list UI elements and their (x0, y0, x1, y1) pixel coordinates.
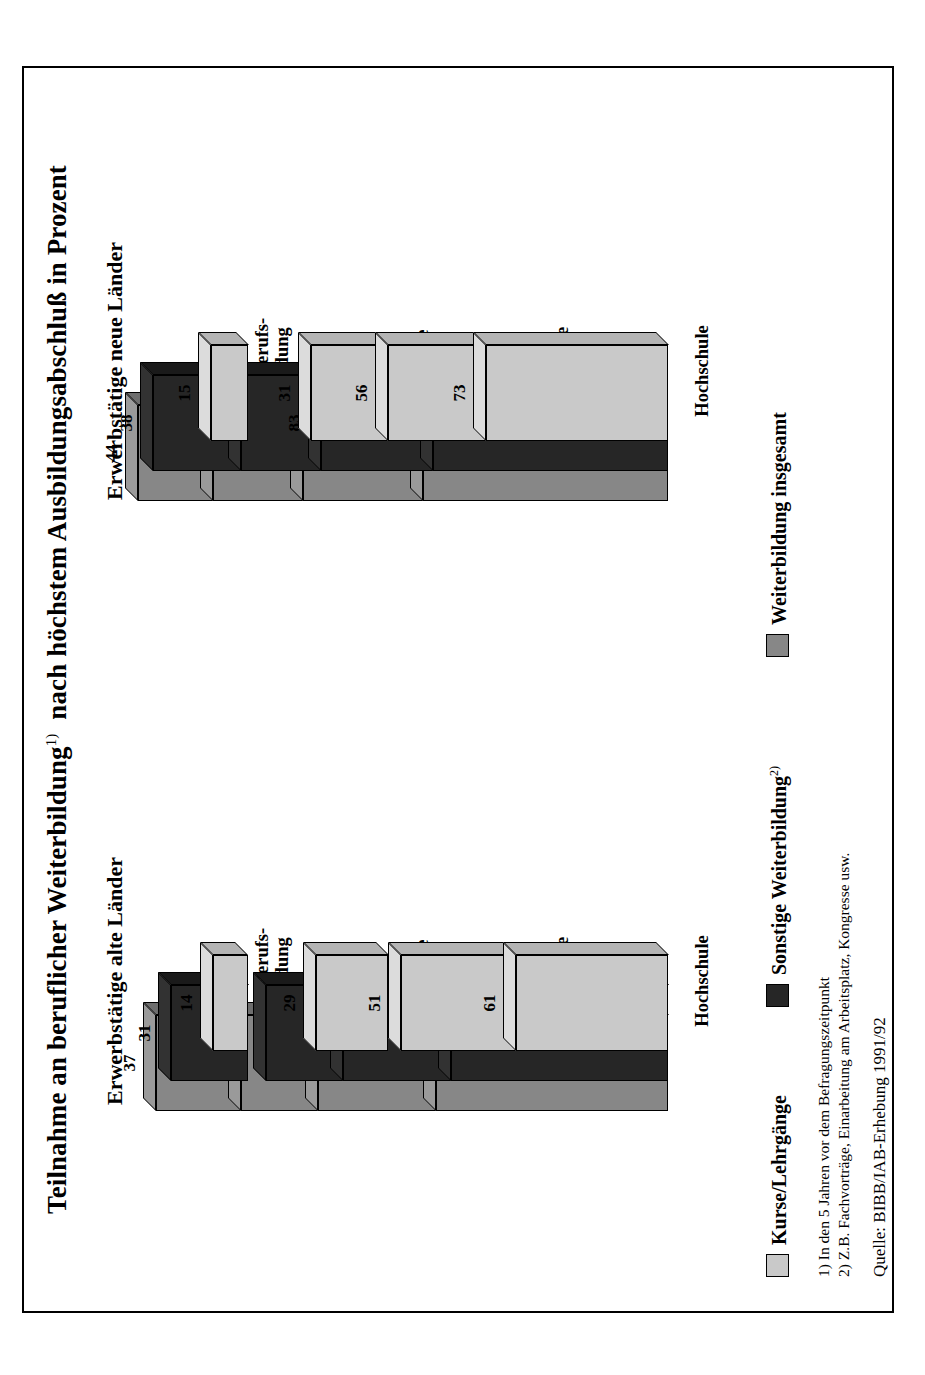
bar-top-face (198, 332, 211, 441)
legend-item-kurse[interactable]: Kurse/Lehrgänge (766, 1095, 791, 1277)
bar-value-label: 31 (275, 385, 295, 402)
bar-kurse-4: 61 (516, 955, 669, 1051)
legend-swatch-gesamt (766, 634, 789, 657)
footnote-2: 2) Z.B. Fachvorträge, Einarbeitung am Ar… (834, 853, 854, 1277)
panel-neue-laender: Erwerbstätige neue Länder 443815Ohne Ber… (102, 71, 742, 671)
bar-front-face (516, 955, 669, 1051)
legend-item-gesamt[interactable]: Weiterbildung insgesamt (766, 412, 791, 657)
bar-top-face (140, 362, 153, 471)
source-line: Quelle: BIBB/IAB-Erhebung 1991/92 (870, 1017, 890, 1277)
footnote-1: 1) In den 5 Jahren vor dem Befragungszei… (814, 853, 834, 1277)
bar-top-face (253, 972, 266, 1081)
bar-front-face (213, 955, 248, 1051)
legend-label-kurse: Kurse/Lehrgänge (768, 1095, 790, 1245)
bar-side-face (503, 942, 669, 955)
bar-group-4: 938761Hochschule (574, 681, 714, 1281)
plot-area-neue: 443815Ohne Berufs-ausbildung705931Nur Le… (154, 71, 714, 671)
category-label-4: Hochschule (693, 71, 712, 671)
legend-swatch-sonstige (766, 984, 789, 1007)
bar-top-face (143, 1002, 156, 1111)
bar-top-face (125, 392, 138, 501)
bar-value-label: 15 (175, 385, 195, 402)
footnotes: 1) In den 5 Jahren vor dem Befragungszei… (814, 853, 855, 1277)
figure-stage: Teilnahme an beruflicher Weiterbildung1)… (0, 0, 925, 1375)
category-label-4: Hochschule (693, 681, 712, 1281)
bar-top-face (303, 942, 316, 1051)
bar-top-face (503, 942, 516, 1051)
bar-side-face (303, 942, 389, 955)
plot-area-alte: 373114Ohne Berufs-ausbildung594929Nur Le… (154, 681, 714, 1281)
title-footnote-marker: 1) (43, 734, 59, 747)
bar-kurse-1: 14 (213, 955, 248, 1051)
bar-side-face (473, 332, 669, 345)
bar-top-face (375, 332, 388, 441)
panel-heading-alte: Erwerbstätige alte Länder (102, 681, 128, 1281)
bar-front-face (211, 345, 249, 441)
panel-alte-laender: Erwerbstätige alte Länder 373114Ohne Ber… (102, 681, 742, 1281)
legend-footnote-marker: 2) (767, 766, 781, 776)
bar-top-face (298, 332, 311, 441)
bar-value-label: 37 (120, 1055, 140, 1072)
panel-heading-neue: Erwerbstätige neue Länder (102, 71, 128, 671)
rotated-figure: Teilnahme an beruflicher Weiterbildung1)… (0, 0, 925, 1375)
bar-value-label: 73 (450, 385, 470, 402)
figure-frame: Teilnahme an beruflicher Weiterbildung1)… (22, 66, 894, 1313)
legend-label-gesamt: Weiterbildung insgesamt (768, 412, 790, 625)
bar-top-face (473, 332, 486, 441)
bar-value-label: 56 (352, 385, 372, 402)
bar-value-label: 31 (135, 1025, 155, 1042)
bar-value-label: 14 (177, 995, 197, 1012)
bar-value-label: 29 (280, 995, 300, 1012)
bar-value-label: 38 (117, 415, 137, 432)
bar-front-face (486, 345, 669, 441)
bar-value-label: 61 (480, 995, 500, 1012)
legend-item-sonstige[interactable]: Sonstige Weiterbildung2) (766, 766, 791, 1007)
legend-swatch-kurse (766, 1254, 789, 1277)
bar-top-face (200, 942, 213, 1051)
title-rest: nach höchstem Ausbildungsabschluß in Pro… (42, 165, 72, 720)
title-main: Teilnahme an beruflicher Weiterbildung (42, 746, 72, 1214)
bar-group-4: 989473Hochschule (574, 71, 714, 671)
bar-kurse-4: 73 (486, 345, 669, 441)
bar-value-label: 51 (365, 995, 385, 1012)
bar-top-face (158, 972, 171, 1081)
bar-value-label: 44 (102, 445, 122, 462)
legend: Kurse/Lehrgänge Sonstige Weiterbildung2)… (766, 97, 800, 1277)
bar-top-face (388, 942, 401, 1051)
bar-kurse-1: 15 (211, 345, 249, 441)
page-title: Teilnahme an beruflicher Weiterbildung1)… (42, 68, 73, 1311)
legend-label-sonstige: Sonstige Weiterbildung (768, 776, 790, 975)
